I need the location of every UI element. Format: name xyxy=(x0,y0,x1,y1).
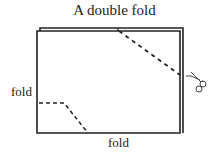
fold-label-left: fold xyxy=(11,84,32,100)
cut-line-top xyxy=(119,31,180,75)
diagram-title: A double fold xyxy=(0,2,223,19)
double-fold-diagram: A double fold fold fold xyxy=(0,0,223,160)
fold-label-bottom: fold xyxy=(108,135,129,151)
back-sheet-edge xyxy=(40,28,183,133)
front-sheet-outline xyxy=(37,31,180,133)
scissors-icon xyxy=(186,72,206,92)
cut-line-bottom xyxy=(39,103,88,133)
